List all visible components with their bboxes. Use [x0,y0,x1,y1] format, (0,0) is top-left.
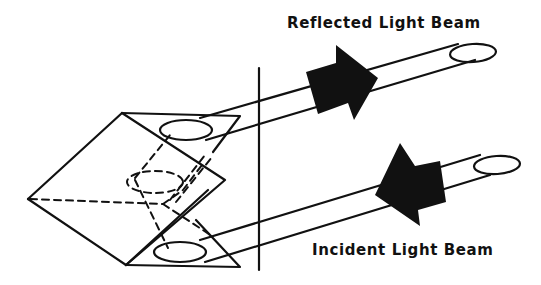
prism-top-face [122,113,240,152]
reflected-arrow-icon [306,45,378,120]
prism-left-lower-edge [28,199,126,265]
incident-arrow-icon [375,143,446,226]
prism-left-upper-edge [28,113,122,199]
bottom-aperture-ellipse [154,242,206,262]
prism-hidden-edge-left [135,135,170,178]
incident-beam-end-ellipse [473,154,520,175]
prism-bottom-face [126,220,240,267]
retroreflector-diagram: Reflected Light Beam Incident Light Beam [0,0,541,285]
prism-hidden-beam-a [170,155,205,200]
prism-hidden-edge-left-down [135,180,168,248]
top-aperture-ellipse [160,120,212,140]
incident-beam-label: Incident Light Beam [312,241,494,259]
reflected-beam-label: Reflected Light Beam [287,14,481,32]
prism-hidden-edge-horizontal [30,199,163,204]
